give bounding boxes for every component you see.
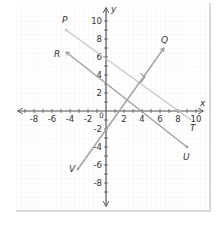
x-tick-label: 8 bbox=[175, 114, 180, 124]
x-tick-label: 2 bbox=[121, 114, 126, 124]
label-U: U bbox=[183, 152, 190, 162]
x-axis-label: x bbox=[199, 98, 206, 108]
x-tick-label: -6 bbox=[48, 114, 56, 124]
y-tick-label: -6 bbox=[94, 160, 102, 170]
grid-background bbox=[16, 3, 209, 210]
x-tick-label: 6 bbox=[157, 114, 162, 124]
point-U-dot bbox=[186, 146, 189, 149]
x-tick-label: 4 bbox=[139, 114, 144, 124]
label-Q: Q bbox=[161, 35, 168, 45]
y-tick-label: -8 bbox=[94, 178, 102, 188]
x-tick-label: -8 bbox=[30, 114, 38, 124]
point-V-dot bbox=[77, 168, 79, 170]
label-R: R bbox=[54, 49, 60, 59]
y-axis-label: y bbox=[110, 4, 117, 14]
y-tick-label: -2 bbox=[94, 124, 102, 134]
x-tick-label: -2 bbox=[84, 114, 92, 124]
x-tick-label: -4 bbox=[66, 114, 74, 124]
point-P-dot bbox=[65, 29, 67, 31]
y-tick-label: 10 bbox=[91, 16, 102, 26]
label-P: P bbox=[62, 15, 68, 25]
y-tick-label: -4 bbox=[94, 142, 102, 152]
origin-label: 0 bbox=[99, 111, 104, 120]
y-tick-label: 8 bbox=[97, 34, 102, 44]
label-V: V bbox=[69, 164, 76, 174]
y-tick-label: 2 bbox=[97, 88, 102, 98]
coordinate-plane: -8-6-4-2246810108642-2-4-6-8 x y 0 P R Q… bbox=[0, 0, 222, 226]
